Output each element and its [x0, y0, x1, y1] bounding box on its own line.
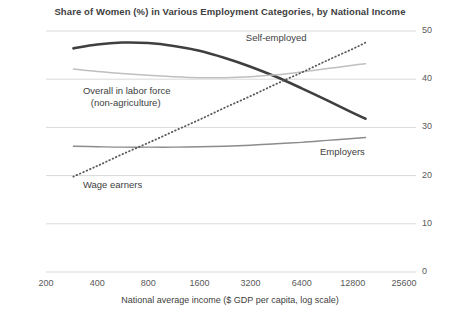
series-label: Overall in labor force (non-agriculture) [83, 85, 171, 109]
y-tick-marks [404, 31, 416, 272]
series-label: Wage earners [83, 179, 142, 191]
x-tick-label: 200 [23, 278, 69, 288]
y-tick-label: 10 [422, 218, 452, 228]
x-tick-label: 3200 [228, 278, 274, 288]
x-tick-label: 12800 [330, 278, 376, 288]
y-tick-label: 40 [422, 73, 452, 83]
y-tick-label: 0 [422, 266, 452, 276]
x-tick-label: 25600 [381, 278, 427, 288]
series-label: Self-employed [246, 32, 307, 44]
x-axis-title: National average income ($ GDP per capit… [0, 295, 460, 305]
x-tick-label: 1600 [176, 278, 222, 288]
y-tick-label: 20 [422, 170, 452, 180]
chart-container: Share of Women (%) in Various Employment… [0, 0, 460, 313]
series-line [73, 64, 365, 78]
chart-plot-area [0, 0, 460, 313]
x-tick-label: 6400 [279, 278, 325, 288]
series-label: Employers [320, 146, 365, 158]
x-tick-label: 400 [74, 278, 120, 288]
x-tick-label: 800 [125, 278, 171, 288]
y-tick-label: 30 [422, 121, 452, 131]
y-tick-label: 50 [422, 25, 452, 35]
